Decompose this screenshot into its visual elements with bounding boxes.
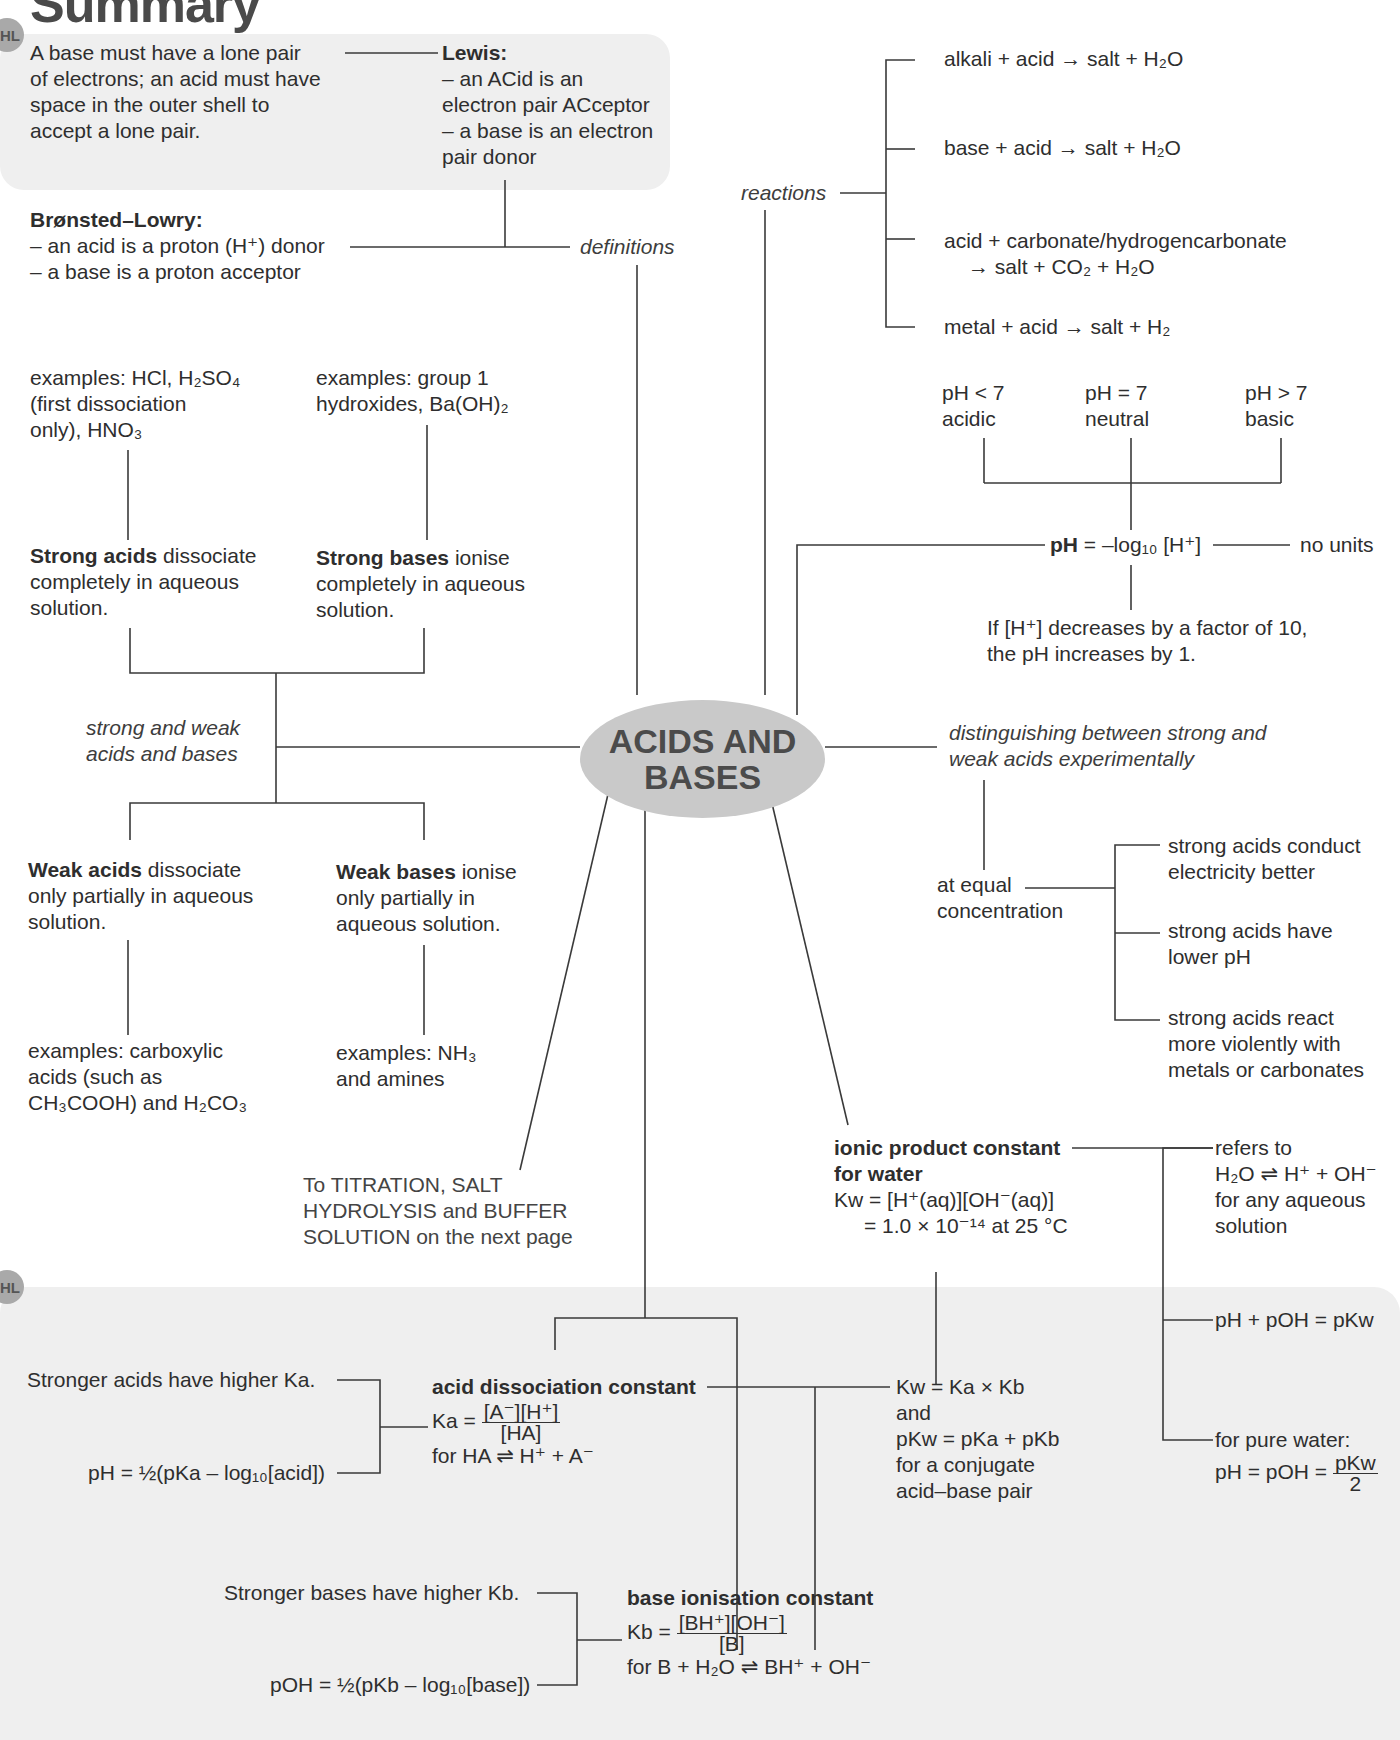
ph-acidic: pH < 7 acidic <box>942 380 1004 432</box>
ph-formula: pH = –log₁₀ [H⁺] <box>1050 532 1201 558</box>
central-topic-line1: ACIDS AND <box>609 723 797 759</box>
ph-poh-relation: pH + pOH = pKw <box>1215 1307 1374 1333</box>
reaction-alkali-acid: alkali + acid → salt + H₂O <box>944 46 1183 72</box>
lewis-note: A base must have a lone pair of electron… <box>30 40 321 144</box>
ph-factor-note: If [H⁺] decreases by a factor of 10, the… <box>987 615 1307 667</box>
central-topic-node: ACIDS AND BASES <box>580 700 825 818</box>
bronsted-lowry-definition: Brønsted–Lowry: – an acid is a proton (H… <box>30 207 325 285</box>
concept-map: Summary HL HL <box>0 0 1400 1740</box>
equal-concentration-condition: at equal concentration <box>937 872 1063 924</box>
base-ionisation-constant: base ionisation constant Kb = [BH⁺][OH⁻]… <box>627 1585 873 1680</box>
reactions-branch-label: reactions <box>741 180 826 206</box>
ph-units-note: no units <box>1300 532 1374 558</box>
kw-ka-kb-relation: Kw = Ka × Kb and pKw = pKa + pKb for a c… <box>896 1374 1059 1504</box>
ka-strength-note: Stronger acids have higher Ka. <box>27 1367 315 1393</box>
weak-bases-description: Weak bases ionise only partially in aque… <box>336 859 517 937</box>
strong-acids-description: Strong acids dissociate completely in aq… <box>30 543 256 621</box>
distinguishing-branch-label: distinguishing between strong and weak a… <box>949 720 1267 772</box>
strong-acids-examples: examples: HCl, H₂SO₄ (first dissociation… <box>30 365 240 443</box>
kb-poh-formula: pOH = ½(pKb – log₁₀[base]) <box>270 1672 530 1698</box>
strong-bases-description: Strong bases ionise completely in aqueou… <box>316 545 525 623</box>
ka-ph-formula: pH = ½(pKa – log₁₀[acid]) <box>88 1460 325 1486</box>
kb-strength-note: Stronger bases have higher Kb. <box>224 1580 519 1606</box>
acid-dissociation-constant: acid dissociation constant Ka = [A⁻][H⁺]… <box>432 1374 696 1469</box>
result-violent-reaction: strong acids react more violently with m… <box>1168 1005 1364 1083</box>
weak-acids-description: Weak acids dissociate only partially in … <box>28 857 253 935</box>
titration-next-page-link[interactable]: To TITRATION, SALT HYDROLYSIS and BUFFER… <box>303 1172 573 1250</box>
result-lower-ph: strong acids have lower pH <box>1168 918 1333 970</box>
kw-definition: ionic product constant for water Kw = [H… <box>834 1135 1068 1239</box>
reaction-metal-acid: metal + acid → salt + H₂ <box>944 314 1170 340</box>
central-topic-line2: BASES <box>644 759 761 795</box>
kw-refers-to: refers to H₂O ⇌ H⁺ + OH⁻ for any aqueous… <box>1215 1135 1377 1239</box>
reaction-base-acid: base + acid → salt + H₂O <box>944 135 1181 161</box>
weak-bases-examples: examples: NH₃ and amines <box>336 1040 476 1092</box>
lewis-definition: Lewis: – an ACid is an electron pair ACc… <box>442 40 653 170</box>
strong-weak-branch-label: strong and weak acids and bases <box>86 715 240 767</box>
weak-acids-examples: examples: carboxylic acids (such as CH₃C… <box>28 1038 247 1116</box>
reaction-acid-carbonate: acid + carbonate/hydrogencarbonate → sal… <box>944 228 1287 280</box>
strong-bases-examples: examples: group 1 hydroxides, Ba(OH)₂ <box>316 365 509 417</box>
ph-neutral: pH = 7 neutral <box>1085 380 1149 432</box>
ph-basic: pH > 7 basic <box>1245 380 1307 432</box>
definitions-branch-label: definitions <box>580 234 675 260</box>
result-conductivity: strong acids conduct electricity better <box>1168 833 1361 885</box>
pure-water-relation: for pure water: pH = pOH = pKw2 <box>1215 1427 1378 1494</box>
